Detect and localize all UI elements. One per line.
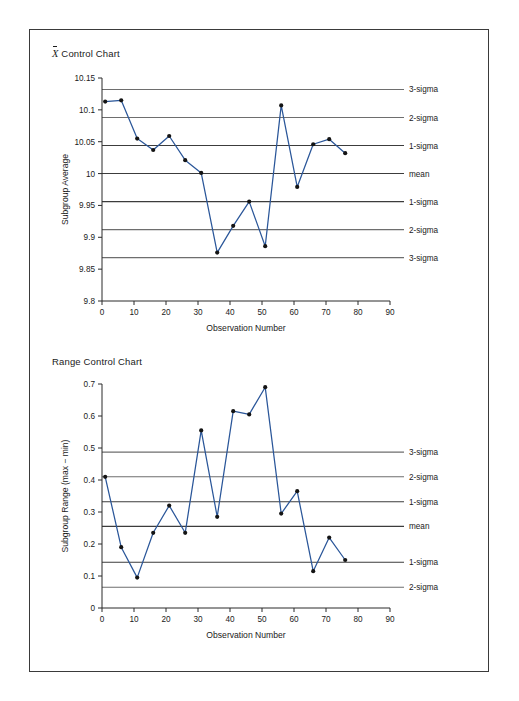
x-tick-label-4: 40 — [225, 308, 235, 317]
y-tick-label-7: 0.7 — [84, 380, 96, 389]
y-tick-group: 9.89.859.99.951010.0510.110.15 — [75, 74, 103, 306]
x-tick-label-0: 0 — [100, 308, 105, 317]
x-tick-label-7: 70 — [321, 615, 331, 624]
x-tick-label-5: 50 — [257, 615, 267, 624]
series-markers — [103, 385, 347, 580]
control-limit-label-1-sigma-4: 1-sigma — [409, 558, 439, 567]
data-point-9 — [247, 200, 251, 204]
x-tick-label-8: 80 — [353, 615, 363, 624]
axes-group — [102, 384, 390, 608]
control-limit-label-3-sigma-0: 3-sigma — [409, 448, 439, 457]
data-point-13 — [311, 142, 315, 146]
x-tick-label-4: 40 — [225, 615, 235, 624]
control-limit-label-1-sigma-4: 1-sigma — [409, 198, 439, 207]
control-limit-group: 3-sigma2-sigma1-sigmamean1-sigma2-sigma — [102, 448, 439, 592]
data-point-15 — [343, 558, 347, 562]
y-tick-label-7: 10.15 — [75, 74, 96, 83]
x-tick-label-1: 10 — [129, 615, 139, 624]
data-point-15 — [343, 151, 347, 155]
data-point-1 — [119, 98, 123, 102]
x-axis-title: Observation Number — [206, 323, 285, 333]
data-point-8 — [231, 409, 235, 413]
control-limit-label-2-sigma-5: 2-sigma — [409, 583, 439, 592]
x-tick-label-9: 90 — [385, 615, 395, 624]
y-axis-title: Subgroup Range (max − min) — [60, 439, 70, 552]
x-axis-title: Observation Number — [206, 630, 285, 640]
y-tick-label-0: 9.8 — [84, 297, 96, 306]
x-tick-group: 0102030405060708090 — [100, 301, 395, 317]
series-line — [105, 387, 345, 577]
data-point-4 — [167, 134, 171, 138]
x-tick-label-6: 60 — [289, 308, 299, 317]
control-limit-label-mean-3: mean — [409, 170, 430, 179]
y-tick-label-1: 0.1 — [84, 572, 96, 581]
data-point-10 — [263, 385, 267, 389]
data-point-14 — [327, 137, 331, 141]
y-tick-label-4: 0.4 — [84, 476, 96, 485]
data-point-8 — [231, 224, 235, 228]
x-tick-label-7: 70 — [321, 308, 331, 317]
y-tick-group: 00.10.20.30.40.50.60.7 — [84, 380, 102, 613]
x-tick-label-6: 60 — [289, 615, 299, 624]
data-point-2 — [135, 576, 139, 580]
y-tick-label-0: 0 — [90, 604, 95, 613]
control-limit-label-3-sigma-6: 3-sigma — [409, 254, 439, 263]
data-point-6 — [199, 428, 203, 432]
control-limit-label-1-sigma-2: 1-sigma — [409, 498, 439, 507]
control-limit-label-1-sigma-2: 1-sigma — [409, 142, 439, 151]
data-point-12 — [295, 185, 299, 189]
data-point-7 — [215, 515, 219, 519]
data-point-0 — [103, 99, 107, 103]
figure-frame: X Control Chart 3-sigma2-sigma1-sigmamea… — [29, 29, 489, 672]
x-tick-group: 0102030405060708090 — [100, 608, 395, 624]
data-point-14 — [327, 536, 331, 540]
data-point-3 — [151, 531, 155, 535]
series-markers — [103, 98, 347, 254]
y-tick-label-5: 0.5 — [84, 444, 96, 453]
data-point-11 — [279, 512, 283, 516]
data-point-9 — [247, 412, 251, 416]
range-control-chart: Range Control Chart 3-sigma2-sigma1-sigm… — [30, 352, 490, 662]
data-point-5 — [183, 531, 187, 535]
x-tick-label-8: 80 — [353, 308, 363, 317]
y-tick-label-6: 10.1 — [79, 106, 95, 115]
x-tick-label-5: 50 — [257, 308, 267, 317]
control-limit-label-mean-3: mean — [409, 522, 430, 531]
y-tick-label-3: 0.3 — [84, 508, 96, 517]
x-tick-label-1: 10 — [129, 308, 139, 317]
y-tick-label-6: 0.6 — [84, 412, 96, 421]
data-point-0 — [103, 475, 107, 479]
control-limit-group: 3-sigma2-sigma1-sigmamean1-sigma2-sigma3… — [102, 85, 439, 262]
data-point-12 — [295, 489, 299, 493]
control-limit-label-2-sigma-1: 2-sigma — [409, 114, 439, 123]
data-point-4 — [167, 504, 171, 508]
data-point-3 — [151, 148, 155, 152]
data-point-6 — [199, 171, 203, 175]
control-limit-label-3-sigma-0: 3-sigma — [409, 85, 439, 94]
x-tick-label-9: 90 — [385, 308, 395, 317]
data-point-7 — [215, 250, 219, 254]
x-tick-label-0: 0 — [100, 615, 105, 624]
data-point-1 — [119, 545, 123, 549]
x-tick-label-3: 30 — [193, 308, 203, 317]
data-point-2 — [135, 136, 139, 140]
y-axis-title: Subgroup Average — [60, 154, 70, 225]
xbar-control-chart: X Control Chart 3-sigma2-sigma1-sigmamea… — [30, 42, 490, 352]
data-point-11 — [279, 103, 283, 107]
y-tick-label-2: 9.9 — [84, 233, 96, 242]
y-tick-label-4: 10 — [86, 170, 96, 179]
y-tick-label-3: 9.95 — [79, 201, 95, 210]
data-point-13 — [311, 569, 315, 573]
x-tick-label-2: 20 — [161, 615, 171, 624]
control-limit-label-2-sigma-1: 2-sigma — [409, 473, 439, 482]
axes-group — [102, 78, 390, 301]
data-point-10 — [263, 244, 267, 248]
y-tick-label-1: 9.85 — [79, 265, 95, 274]
y-tick-label-2: 0.2 — [84, 540, 96, 549]
x-tick-label-3: 30 — [193, 615, 203, 624]
x-tick-label-2: 20 — [161, 308, 171, 317]
data-point-5 — [183, 158, 187, 162]
y-tick-label-5: 10.05 — [75, 138, 96, 147]
control-limit-label-2-sigma-5: 2-sigma — [409, 226, 439, 235]
